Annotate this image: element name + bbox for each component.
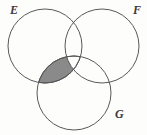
set-label-F: F <box>133 4 141 16</box>
set-circle-F <box>65 9 139 83</box>
set-label-E: E <box>10 4 18 16</box>
venn-diagram-canvas <box>0 0 147 135</box>
venn-diagram-figure: E F G <box>0 0 147 135</box>
shaded-region-E-and-G-not-F <box>0 0 147 135</box>
set-label-G: G <box>115 108 124 120</box>
